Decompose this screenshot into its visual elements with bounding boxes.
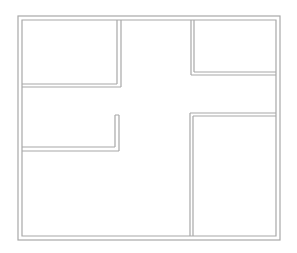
wall-middle-left-bottom [22, 147, 119, 151]
outer-wall-outer-line [18, 16, 280, 240]
wall-middle-left-stub [115, 115, 119, 151]
wall-top-right-room-bottom [191, 72, 276, 75]
wall-bottom-right-room-top [190, 113, 276, 116]
wall-top-left-room-right [117, 20, 121, 87]
floor-plan [0, 0, 297, 253]
wall-bottom-right-room-left [190, 113, 193, 236]
outer-wall-inner-line [22, 20, 276, 236]
wall-top-left-room-bottom [22, 84, 121, 87]
wall-top-right-room-left [191, 20, 194, 75]
